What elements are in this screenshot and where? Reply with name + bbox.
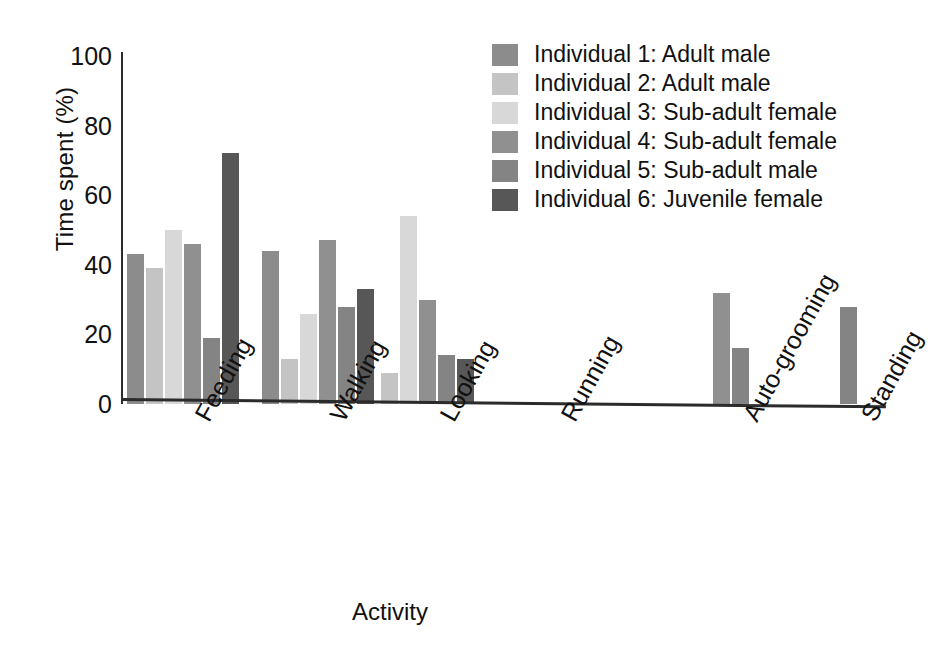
legend-label: Individual 2: Adult male: [534, 72, 771, 95]
bar: [146, 268, 163, 404]
legend-swatch-icon: [492, 44, 518, 66]
x-axis-title: Activity: [0, 598, 780, 626]
legend-label: Individual 5: Sub-adult male: [534, 159, 818, 182]
x-axis-tick-labels: FeedingWalkingLookingRunningAuto-groomin…: [0, 404, 906, 564]
legend-label: Individual 3: Sub-adult female: [534, 101, 837, 124]
legend-swatch-icon: [492, 131, 518, 153]
bar: [419, 300, 436, 404]
legend-swatch-icon: [492, 160, 518, 182]
legend: Individual 1: Adult maleIndividual 2: Ad…: [492, 40, 892, 214]
legend-swatch-icon: [492, 73, 518, 95]
legend-item: Individual 3: Sub-adult female: [492, 98, 892, 127]
legend-swatch-icon: [492, 102, 518, 124]
legend-item: Individual 4: Sub-adult female: [492, 127, 892, 156]
bar: [281, 359, 298, 404]
bar: [300, 314, 317, 404]
legend-item: Individual 1: Adult male: [492, 40, 892, 69]
bar: [165, 230, 182, 404]
legend-item: Individual 6: Juvenile female: [492, 185, 892, 214]
bar: [319, 240, 336, 404]
legend-label: Individual 4: Sub-adult female: [534, 130, 837, 153]
bar: [840, 307, 857, 404]
bar: [400, 216, 417, 404]
bar: [184, 244, 201, 404]
bar: [713, 293, 730, 404]
legend-item: Individual 2: Adult male: [492, 69, 892, 98]
legend-swatch-icon: [492, 189, 518, 211]
legend-label: Individual 1: Adult male: [534, 43, 771, 66]
bar: [262, 251, 279, 404]
legend-label: Individual 6: Juvenile female: [534, 188, 823, 211]
bar: [127, 254, 144, 404]
bar: [381, 373, 398, 404]
legend-item: Individual 5: Sub-adult male: [492, 156, 892, 185]
